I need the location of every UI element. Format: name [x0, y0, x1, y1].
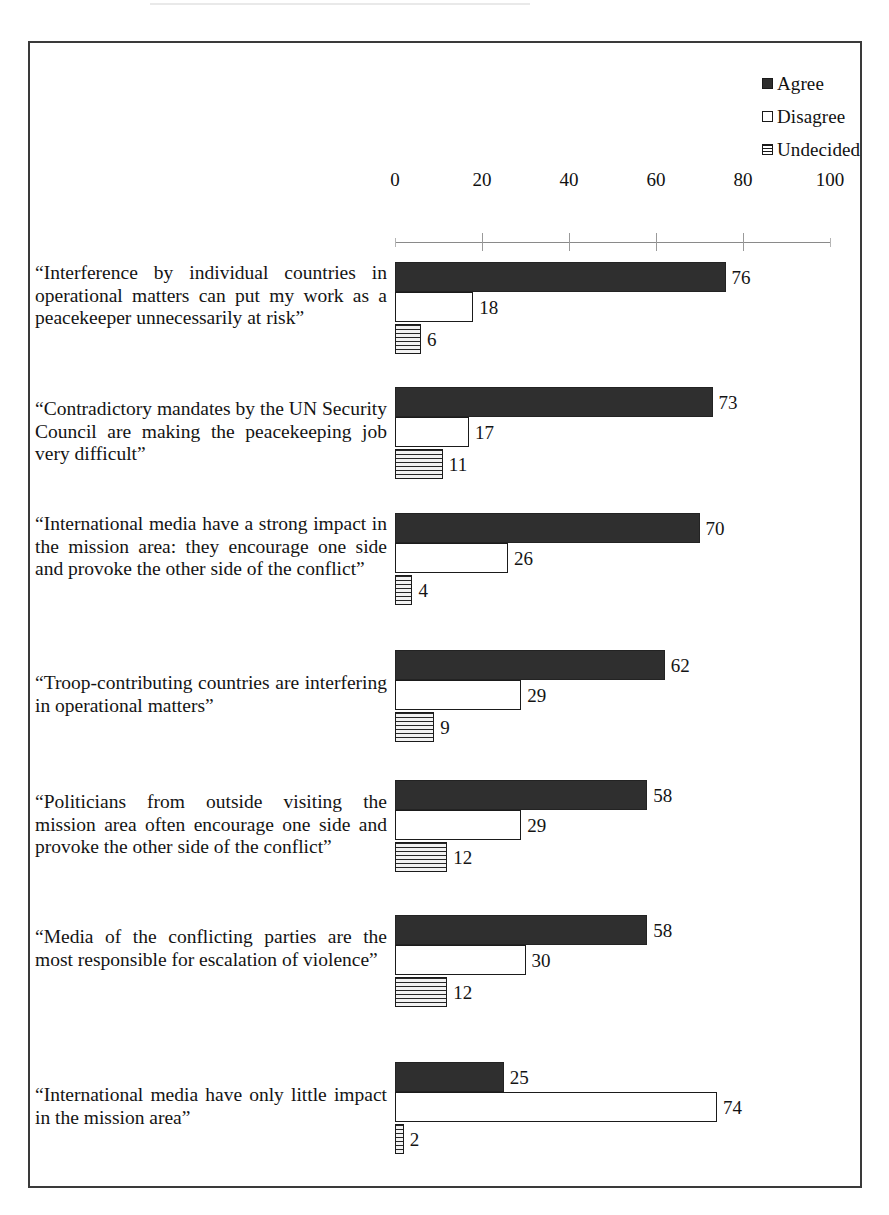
bar-value-disagree: 74: [717, 1098, 742, 1117]
legend-label-undecided: Undecided: [777, 140, 860, 159]
legend-item-undecided: Undecided: [762, 133, 889, 166]
chart-legend: Agree Disagree Undecided: [762, 67, 889, 166]
bar-value-agree: 76: [726, 268, 751, 287]
bar-value-undecided: 6: [421, 330, 437, 349]
legend-item-disagree: Disagree: [762, 100, 889, 133]
bar-value-disagree: 17: [469, 423, 494, 442]
x-axis-tick-0: [395, 238, 396, 247]
bar-disagree[interactable]: [395, 417, 469, 447]
bar-group-label: “Troop-contributing countries are interf…: [35, 672, 387, 717]
scan-artifact: [150, 3, 530, 5]
bar-value-agree: 62: [665, 656, 690, 675]
x-axis-tick-20: [482, 233, 483, 251]
bar-value-undecided: 2: [404, 1130, 420, 1149]
bar-undecided[interactable]: [395, 842, 447, 872]
bar-undecided[interactable]: [395, 712, 434, 742]
bar-agree[interactable]: [395, 650, 665, 680]
bar-disagree[interactable]: [395, 1092, 717, 1122]
x-tick-label-80: 80: [734, 170, 753, 190]
bar-agree[interactable]: [395, 1062, 504, 1092]
legend-label-disagree: Disagree: [777, 107, 845, 126]
x-axis-tick-60: [656, 233, 657, 251]
bar-value-disagree: 29: [521, 686, 546, 705]
legend-swatch-agree-icon: [762, 78, 773, 89]
bar-undecided[interactable]: [395, 1124, 404, 1154]
bar-agree[interactable]: [395, 780, 647, 810]
x-tick-label-0: 0: [390, 170, 400, 190]
x-axis-tick-labels: 0 20 40 60 80 100: [30, 170, 860, 192]
bar-disagree[interactable]: [395, 945, 526, 975]
bar-group-label: “International media have a strong impac…: [35, 513, 387, 581]
bar-value-undecided: 9: [434, 718, 450, 737]
bar-disagree[interactable]: [395, 680, 521, 710]
x-axis-tick-40: [569, 233, 570, 251]
bar-group-label: “Politicians from outside visiting the m…: [35, 791, 387, 859]
bar-group-label: “Media of the conflicting parties are th…: [35, 926, 387, 971]
bar-value-disagree: 30: [526, 951, 551, 970]
bar-value-agree: 70: [700, 519, 725, 538]
bar-value-undecided: 12: [447, 848, 472, 867]
x-tick-label-40: 40: [560, 170, 579, 190]
bar-agree[interactable]: [395, 387, 713, 417]
bar-agree[interactable]: [395, 262, 726, 292]
x-axis-tick-100: [830, 238, 831, 247]
bar-agree[interactable]: [395, 915, 647, 945]
bar-value-disagree: 18: [473, 298, 498, 317]
x-tick-label-20: 20: [473, 170, 492, 190]
bar-value-undecided: 12: [447, 983, 472, 1002]
legend-label-agree: Agree: [777, 74, 824, 93]
bar-group-label: “International media have only little im…: [35, 1084, 387, 1129]
chart-frame: Agree Disagree Undecided 0 20 40 60 80 1…: [28, 41, 862, 1188]
bar-undecided[interactable]: [395, 324, 421, 354]
x-axis-tick-80: [743, 233, 744, 251]
bar-value-undecided: 11: [443, 455, 467, 474]
bar-undecided[interactable]: [395, 575, 412, 605]
bar-value-agree: 58: [647, 786, 672, 805]
bar-value-disagree: 26: [508, 549, 533, 568]
x-tick-label-60: 60: [647, 170, 666, 190]
bar-disagree[interactable]: [395, 543, 508, 573]
bar-value-disagree: 29: [521, 816, 546, 835]
bar-group-label: “Contradictory mandates by the UN Securi…: [35, 398, 387, 466]
bar-undecided[interactable]: [395, 449, 443, 479]
legend-item-agree: Agree: [762, 67, 889, 100]
bar-disagree[interactable]: [395, 292, 473, 322]
bar-value-agree: 25: [504, 1068, 529, 1087]
bar-undecided[interactable]: [395, 977, 447, 1007]
bar-group-label: “Interference by individual countries in…: [35, 262, 387, 330]
x-axis-line: [395, 242, 830, 243]
legend-swatch-undecided-icon: [762, 144, 773, 155]
bar-value-undecided: 4: [412, 581, 428, 600]
bar-agree[interactable]: [395, 513, 700, 543]
bar-disagree[interactable]: [395, 810, 521, 840]
bar-value-agree: 73: [713, 393, 738, 412]
legend-swatch-disagree-icon: [762, 111, 773, 122]
x-tick-label-100: 100: [816, 170, 845, 190]
bar-value-agree: 58: [647, 921, 672, 940]
